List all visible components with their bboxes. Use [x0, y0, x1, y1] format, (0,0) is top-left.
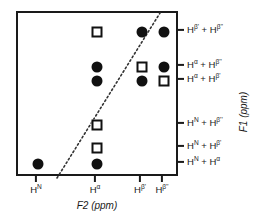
plot-frame	[16, 11, 178, 176]
x-tick-label-2: Hβ'	[134, 185, 146, 195]
x-tick-0	[35, 176, 37, 182]
data-marker-square-9	[92, 120, 103, 131]
y-tick-3	[178, 122, 184, 124]
y-tick-4	[178, 145, 184, 147]
data-marker-square-0	[92, 27, 103, 38]
y-tick-2	[178, 78, 184, 80]
data-marker-circle-5	[159, 62, 170, 73]
x-tick-label-1: Hα	[90, 185, 101, 195]
data-marker-circle-12	[33, 159, 44, 170]
y-tick-label-0: Hβ' + Hβ''	[187, 25, 223, 35]
y-tick-label-1: Hα + Hβ''	[187, 60, 222, 70]
x-axis-title: F2 (ppm)	[77, 200, 118, 211]
data-marker-square-8	[159, 76, 170, 87]
data-marker-circle-2	[159, 27, 170, 38]
x-tick-label-0: HN	[30, 185, 42, 195]
x-tick-3	[161, 176, 163, 182]
y-tick-1	[178, 64, 184, 66]
y-tick-0	[178, 29, 184, 31]
x-tick-label-3: Hβ''	[155, 185, 168, 195]
data-marker-circle-6	[92, 76, 103, 87]
y-tick-label-5: HN + Hα	[187, 157, 220, 167]
y-tick-label-4: HN + Hβ'	[187, 141, 221, 151]
y-tick-5	[178, 161, 184, 163]
x-tick-2	[139, 176, 141, 182]
x-tick-1	[94, 176, 96, 182]
data-marker-square-10	[92, 143, 103, 154]
nmr-correlation-figure: HNHαHβ'Hβ'' Hβ' + Hβ''Hα + Hβ''Hα + Hβ'H…	[0, 0, 262, 222]
y-tick-label-3: HN + Hβ''	[187, 118, 223, 128]
y-tick-label-2: Hα + Hβ'	[187, 74, 220, 84]
data-marker-circle-7	[137, 76, 148, 87]
data-marker-square-4	[137, 62, 148, 73]
data-marker-circle-1	[137, 27, 148, 38]
data-marker-circle-11	[92, 159, 103, 170]
y-axis-title: F1 (ppm)	[238, 92, 249, 133]
data-marker-circle-3	[92, 62, 103, 73]
